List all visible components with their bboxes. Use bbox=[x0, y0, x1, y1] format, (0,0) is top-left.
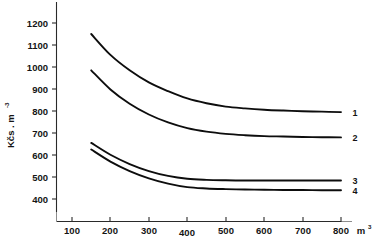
y-axis-title: Kčs . m -3 bbox=[3, 102, 16, 148]
y-tick-label-800: 800 bbox=[32, 106, 48, 117]
y-tick-label-400: 400 bbox=[32, 194, 48, 205]
series-label-3: 3 bbox=[352, 176, 357, 186]
y-tick-label-600: 600 bbox=[32, 150, 48, 161]
x-tick-label-400: 400 bbox=[179, 227, 195, 238]
series-curve-4 bbox=[91, 150, 341, 191]
series-curve-3 bbox=[91, 143, 341, 181]
x-axis-title-text: m bbox=[357, 225, 365, 236]
x-tick-label-200: 200 bbox=[102, 225, 118, 236]
series-label-4: 4 bbox=[352, 186, 357, 196]
y-axis-title-superscript: -3 bbox=[3, 102, 10, 108]
series-label-2: 2 bbox=[352, 133, 357, 143]
chart-plot-area: 1200 1100 1000 900 800 700 600 500 400 1… bbox=[0, 0, 383, 246]
series-legend: 1 2 3 4 bbox=[352, 108, 357, 196]
y-tick-label-900: 900 bbox=[32, 84, 48, 95]
y-axis-tick-labels: 1200 1100 1000 900 800 700 600 500 400 bbox=[27, 18, 48, 205]
series-curve-2 bbox=[91, 70, 341, 137]
x-tick-label-500: 500 bbox=[218, 225, 234, 236]
y-tick-label-1200: 1200 bbox=[27, 18, 48, 29]
chart-figure: 1200 1100 1000 900 800 700 600 500 400 1… bbox=[0, 0, 383, 246]
x-axis-title-superscript: 3 bbox=[368, 223, 372, 230]
x-tick-label-800: 800 bbox=[333, 225, 349, 236]
x-tick-label-100: 100 bbox=[64, 225, 80, 236]
x-tick-label-300: 300 bbox=[141, 225, 157, 236]
x-tick-label-600: 600 bbox=[256, 225, 272, 236]
x-tick-label-700: 700 bbox=[295, 225, 311, 236]
series-curve-1 bbox=[91, 34, 341, 112]
y-axis-title-text: Kčs . m bbox=[5, 114, 16, 148]
x-axis-title: m 3 bbox=[357, 223, 372, 237]
y-tick-label-700: 700 bbox=[32, 128, 48, 139]
y-tick-label-1000: 1000 bbox=[27, 62, 48, 73]
x-axis-tick-labels: 100 200 300 400 500 600 700 800 bbox=[64, 225, 349, 238]
y-tick-label-500: 500 bbox=[32, 172, 48, 183]
y-tick-label-1100: 1100 bbox=[27, 40, 48, 51]
series-label-1: 1 bbox=[352, 108, 357, 118]
chart-series-curves bbox=[91, 34, 341, 190]
